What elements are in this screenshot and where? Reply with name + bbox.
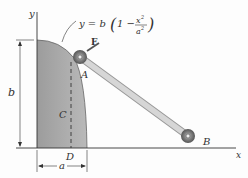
point-a-label: A — [80, 69, 88, 80]
equation-prefix: y = b — [78, 18, 106, 29]
equation-num-exp: 2 — [140, 14, 144, 20]
equation-one: 1 − — [117, 18, 135, 29]
pin-b — [186, 134, 190, 138]
equation-leader — [62, 21, 76, 42]
force-label: F — [91, 37, 98, 47]
point-c-label: C — [59, 109, 67, 120]
diagram: y x b a A B C D F y = b ( 1 − x 2 a 2 ) — [0, 0, 248, 178]
paren-left: ( — [110, 15, 117, 34]
pin-a — [78, 55, 82, 59]
rod-ab-face — [80, 57, 188, 136]
point-b-label: B — [202, 136, 210, 147]
y-axis-label: y — [28, 8, 35, 19]
x-axis-label: x — [236, 150, 241, 160]
height-label: b — [8, 86, 15, 99]
width-label: a — [59, 160, 65, 171]
mechanics-diagram: y x b a A B C D F y = b ( 1 − x 2 a 2 ) — [0, 0, 248, 178]
paren-right: ) — [147, 15, 154, 34]
point-d-label: D — [65, 151, 74, 162]
equation-den-exp: 2 — [140, 25, 144, 31]
